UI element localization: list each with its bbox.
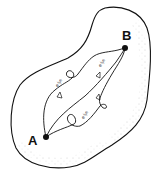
phase-label-upper: eⁱˢ/ʰ — [54, 78, 64, 89]
label-b: B — [122, 28, 131, 43]
label-a: A — [28, 133, 38, 148]
point-a — [43, 134, 49, 140]
path-middle — [46, 48, 125, 137]
path-lower — [46, 48, 125, 137]
point-b — [122, 45, 128, 51]
phase-label-lower: eⁱˢ/ʰ — [80, 110, 90, 121]
arrow-middle-icon — [96, 72, 100, 78]
arrow-upper-icon — [57, 92, 62, 98]
phase-label-middle: eⁱˢ/ʰ — [97, 58, 107, 69]
path-integral-diagram: A B eⁱˢ/ʰ eⁱˢ/ʰ eⁱˢ/ʰ — [0, 0, 157, 180]
